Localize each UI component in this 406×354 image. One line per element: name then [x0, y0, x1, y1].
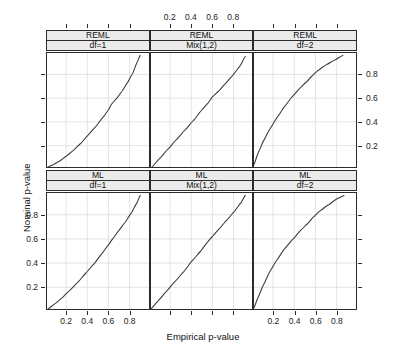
- tick-label-bottom: 0.8: [328, 316, 346, 326]
- tick-left: [41, 263, 45, 264]
- tick-top: [233, 24, 234, 28]
- tick-right: [358, 146, 362, 147]
- tick-top: [191, 24, 192, 28]
- tick-label-top: 0.2: [161, 12, 179, 22]
- y-axis-title: Nominal p-value: [21, 163, 32, 232]
- tick-top: [316, 24, 317, 28]
- strip-row-label: REML: [86, 31, 110, 40]
- tick-right: [358, 239, 362, 240]
- tick-bottom: [130, 311, 131, 315]
- qq-curve: [254, 55, 343, 164]
- tick-left: [41, 74, 45, 75]
- strip-row-label: REML: [293, 31, 317, 40]
- tick-label-bottom: 0.2: [57, 316, 75, 326]
- tick-label-bottom: 0.4: [286, 316, 304, 326]
- panel-plot-area: [254, 193, 356, 309]
- tick-right: [358, 122, 362, 123]
- panel-plot-area: [254, 53, 356, 167]
- tick-left: [41, 215, 45, 216]
- tick-bottom: [66, 311, 67, 315]
- tick-bottom: [337, 311, 338, 315]
- tick-label-bottom: 0.2: [264, 316, 282, 326]
- tick-left: [41, 239, 45, 240]
- tick-label-right: 0.4: [366, 117, 386, 127]
- panel-reml-df-1: [46, 52, 150, 168]
- panel-plot-area: [47, 53, 149, 167]
- tick-label-bottom: 0.8: [121, 316, 139, 326]
- tick-right: [358, 74, 362, 75]
- panel-reml-df-2: [253, 52, 357, 168]
- tick-top: [66, 24, 67, 28]
- tick-label-bottom: 0.4: [78, 316, 96, 326]
- panel-ml-mix-1-2-: [150, 192, 254, 310]
- strip-col-label: df=2: [297, 181, 314, 190]
- tick-label-top: 0.4: [182, 12, 200, 22]
- tick-top: [337, 24, 338, 28]
- tick-left: [41, 146, 45, 147]
- tick-right: [358, 263, 362, 264]
- panel-plot-area: [151, 53, 253, 167]
- panel-ml-df-1: [46, 192, 150, 310]
- tick-top: [295, 24, 296, 28]
- qq-curve: [48, 55, 140, 167]
- tick-bottom: [108, 311, 109, 315]
- qq-curve: [254, 195, 344, 307]
- tick-bottom: [316, 311, 317, 315]
- strip-col-mix-1-2-: Mix(1,2): [150, 180, 254, 191]
- tick-label-bottom: 0.6: [307, 316, 325, 326]
- tick-bottom: [273, 311, 274, 315]
- tick-label-right: 0.2: [366, 141, 386, 151]
- qq-curve: [48, 195, 140, 309]
- strip-col-df-1: df=1: [46, 40, 150, 51]
- qq-curve: [152, 57, 245, 167]
- panel-reml-mix-1-2-: [150, 52, 254, 168]
- strip-col-label: df=1: [89, 181, 106, 190]
- tick-right: [358, 287, 362, 288]
- x-axis-title: Empirical p-value: [0, 331, 406, 342]
- tick-bottom: [191, 311, 192, 315]
- tick-top: [170, 24, 171, 28]
- tick-bottom: [170, 311, 171, 315]
- tick-label-bottom: 0.6: [99, 316, 117, 326]
- strip-col-df-2: df=2: [253, 180, 357, 191]
- tick-label-top: 0.6: [203, 12, 221, 22]
- strip-col-mix-1-2-: Mix(1,2): [150, 40, 254, 51]
- tick-top: [130, 24, 131, 28]
- panel-plot-area: [47, 193, 149, 309]
- tick-bottom: [212, 311, 213, 315]
- tick-right: [358, 98, 362, 99]
- strip-row-label: ML: [196, 171, 208, 180]
- strip-col-df-2: df=2: [253, 40, 357, 51]
- qq-curve: [151, 195, 245, 309]
- tick-left: [41, 98, 45, 99]
- tick-label-right: 0.6: [366, 93, 386, 103]
- tick-top: [212, 24, 213, 28]
- tick-left: [41, 122, 45, 123]
- tick-left: [41, 287, 45, 288]
- tick-top: [87, 24, 88, 28]
- strip-row-label: REML: [190, 31, 214, 40]
- tick-label-right: 0.8: [366, 69, 386, 79]
- tick-right: [358, 215, 362, 216]
- figure-canvas: 0.20.40.60.8 0.20.40.60.8 0.20.40.60.8 0…: [0, 0, 406, 354]
- tick-bottom: [295, 311, 296, 315]
- tick-label-top: 0.8: [224, 12, 242, 22]
- strip-col-label: df=1: [89, 41, 106, 50]
- tick-bottom: [233, 311, 234, 315]
- tick-top: [273, 24, 274, 28]
- tick-bottom: [87, 311, 88, 315]
- tick-top: [108, 24, 109, 28]
- strip-col-label: Mix(1,2): [186, 41, 217, 50]
- strip-col-label: Mix(1,2): [186, 181, 217, 190]
- strip-col-label: df=2: [297, 41, 314, 50]
- panel-plot-area: [151, 193, 253, 309]
- panel-ml-df-2: [253, 192, 357, 310]
- strip-row-label: ML: [92, 171, 104, 180]
- strip-row-label: ML: [299, 171, 311, 180]
- strip-col-df-1: df=1: [46, 180, 150, 191]
- y-axis-title-wrap: Nominal p-value: [10, 0, 24, 354]
